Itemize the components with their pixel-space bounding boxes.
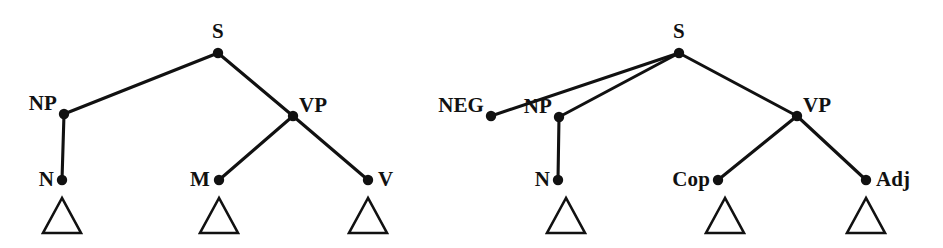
edge-S-to-NP <box>64 53 218 114</box>
node-label-VP: VP <box>803 93 831 117</box>
node-label-NP: NP <box>29 91 57 115</box>
node-dot-NP <box>554 112 564 122</box>
edge-NP-to-N <box>62 114 64 180</box>
node-label-S: S <box>212 19 224 43</box>
edge-S-to-VP <box>679 53 797 116</box>
triangle-under-Cop <box>706 198 744 233</box>
edge-VP-to-Adj <box>797 116 866 180</box>
triangle-under-N <box>547 198 585 233</box>
edge-S-to-VP <box>218 53 293 116</box>
node-dot-VP <box>792 111 802 121</box>
node-dot-NEG <box>486 111 496 121</box>
node-dot-N <box>57 175 67 185</box>
edge-S-to-NP <box>559 53 679 117</box>
triangle-under-Adj <box>847 198 885 233</box>
node-label-M: M <box>190 167 210 191</box>
edge-VP-to-M <box>219 116 293 180</box>
node-dot-S <box>213 48 223 58</box>
node-dot-S <box>674 48 684 58</box>
edge-NP-to-N <box>558 117 559 180</box>
node-label-V: V <box>378 167 393 191</box>
tree-canvas: SNPVPNMVSNEGNPVPNCopAdj <box>0 0 943 248</box>
triangle-under-N <box>43 198 81 233</box>
node-label-N: N <box>535 167 550 191</box>
node-label-S: S <box>673 19 685 43</box>
node-dot-M <box>214 175 224 185</box>
node-dot-VP <box>288 111 298 121</box>
node-dot-NP <box>59 109 69 119</box>
node-dot-Cop <box>713 175 723 185</box>
triangle-under-M <box>200 198 238 233</box>
edge-VP-to-Cop <box>718 116 797 180</box>
edge-S-to-NEG <box>491 53 679 116</box>
node-dot-Adj <box>861 175 871 185</box>
edge-VP-to-V <box>293 116 368 180</box>
triangles-layer <box>43 198 885 233</box>
triangle-under-V <box>349 198 387 233</box>
node-label-N: N <box>39 167 54 191</box>
node-label-NEG: NEG <box>438 93 484 117</box>
node-label-VP: VP <box>299 93 327 117</box>
node-label-Cop: Cop <box>672 167 710 191</box>
syntax-tree-figure: SNPVPNMVSNEGNPVPNCopAdj <box>0 0 943 248</box>
node-label-NP: NP <box>524 94 552 118</box>
node-label-Adj: Adj <box>876 167 910 191</box>
node-dot-N <box>553 175 563 185</box>
node-dot-V <box>363 175 373 185</box>
